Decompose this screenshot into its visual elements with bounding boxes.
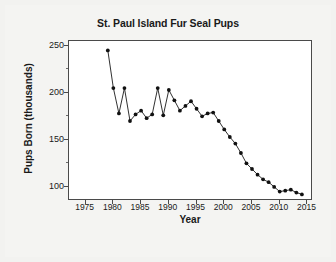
y-axis-tick-mark bbox=[64, 45, 68, 46]
data-point-marker: 2008: 105 bbox=[267, 180, 271, 184]
data-point-marker: 1979: 245 bbox=[106, 49, 110, 53]
y-axis-tick-labels: 100150200250 bbox=[36, 40, 64, 200]
data-point-marker: 2012: 97 bbox=[289, 188, 293, 192]
data-point-marker: 2001: 153 bbox=[228, 135, 232, 139]
data-point-marker: 1999: 170 bbox=[217, 119, 221, 123]
x-axis-tick-mark bbox=[251, 200, 252, 204]
data-point-marker: 2005: 119 bbox=[250, 167, 254, 171]
y-axis-tick-label: 200 bbox=[38, 87, 64, 97]
data-point-marker: 2009: 100 bbox=[272, 185, 276, 189]
y-axis-tick-mark bbox=[64, 92, 68, 93]
data-point-marker: 1995: 183 bbox=[195, 107, 199, 111]
data-point-marker: 1988: 205 bbox=[156, 86, 160, 90]
x-axis-tick-mark bbox=[112, 200, 113, 204]
y-axis-tick-label: 250 bbox=[38, 40, 64, 50]
series-polyline bbox=[108, 50, 302, 194]
data-point-marker: 1991: 192 bbox=[172, 98, 176, 102]
data-point-marker: 2013: 94 bbox=[294, 191, 298, 195]
x-axis-tick-mark bbox=[140, 200, 141, 204]
data-point-marker: 1993: 186 bbox=[184, 104, 188, 108]
data-point-marker: 2014: 92 bbox=[300, 193, 304, 197]
data-point-marker: 2002: 146 bbox=[233, 142, 237, 146]
y-axis-minor-tick-mark bbox=[66, 115, 69, 116]
y-axis-tick-label: 100 bbox=[38, 181, 64, 191]
x-axis-tick-mark bbox=[279, 200, 280, 204]
data-series-line: 1979: 2451980: 2051981: 1781982: 2051983… bbox=[69, 41, 313, 201]
y-axis-minor-tick-mark bbox=[66, 162, 69, 163]
data-point-marker: 1981: 178 bbox=[117, 112, 121, 116]
x-axis-tick-mark bbox=[85, 200, 86, 204]
data-point-marker: 1990: 203 bbox=[167, 88, 171, 92]
data-point-marker: 1985: 181 bbox=[139, 109, 143, 113]
data-point-marker: 1997: 178 bbox=[206, 112, 210, 116]
data-point-marker: 1987: 177 bbox=[150, 113, 154, 117]
data-point-marker: 1986: 173 bbox=[145, 116, 149, 120]
x-axis-tick-mark bbox=[168, 200, 169, 204]
data-point-marker: 1984: 177 bbox=[134, 113, 138, 117]
x-axis-tick-mark bbox=[306, 200, 307, 204]
x-axis-tick-mark bbox=[196, 200, 197, 204]
y-axis-tick-mark bbox=[64, 186, 68, 187]
data-point-marker: 1994: 191 bbox=[189, 99, 193, 103]
x-axis-title: Year bbox=[68, 214, 312, 225]
data-point-marker: 1982: 205 bbox=[123, 86, 127, 90]
figure-container: St. Paul Island Fur Seal Pups Pups Born … bbox=[0, 0, 336, 262]
data-point-marker: 1998: 179 bbox=[211, 111, 215, 115]
data-point-marker: 1996: 175 bbox=[200, 114, 204, 118]
data-point-marker: 1992: 181 bbox=[178, 109, 182, 113]
data-point-marker: 1980: 205 bbox=[111, 86, 115, 90]
y-axis-tick-label: 150 bbox=[38, 134, 64, 144]
y-axis-minor-tick-mark bbox=[66, 68, 69, 69]
plot-area: 1979: 2451980: 2051981: 1781982: 2051983… bbox=[68, 40, 312, 200]
data-point-marker: 2003: 136 bbox=[239, 151, 243, 155]
data-point-marker: 2006: 113 bbox=[256, 173, 260, 177]
x-axis-tick-mark bbox=[223, 200, 224, 204]
y-axis-tick-mark bbox=[64, 139, 68, 140]
data-point-marker: 2010: 95 bbox=[278, 190, 282, 194]
data-point-marker: 2000: 161 bbox=[222, 128, 226, 132]
data-point-marker: 2004: 125 bbox=[245, 161, 249, 165]
chart-title: St. Paul Island Fur Seal Pups bbox=[0, 17, 336, 29]
data-point-marker: 1983: 170 bbox=[128, 119, 132, 123]
y-axis-title: Pups Born (thousands) bbox=[23, 39, 34, 199]
data-point-marker: 2007: 108 bbox=[261, 177, 265, 181]
data-point-marker: 1989: 176 bbox=[161, 113, 165, 117]
data-point-marker: 2011: 96 bbox=[283, 189, 287, 193]
